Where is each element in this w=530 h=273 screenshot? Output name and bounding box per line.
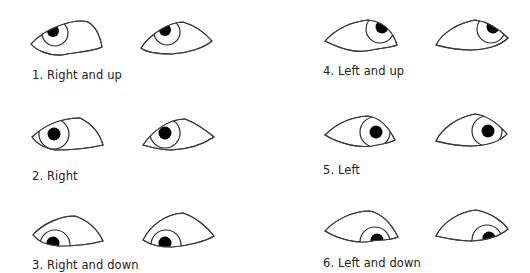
pupil bbox=[482, 125, 495, 138]
eye-right bbox=[143, 213, 214, 260]
panel-5-eyes bbox=[325, 114, 507, 147]
pupil bbox=[487, 21, 500, 34]
eye-right bbox=[143, 118, 214, 150]
panel-6-eyes bbox=[325, 210, 508, 257]
pupil bbox=[159, 237, 172, 250]
pupil bbox=[370, 126, 383, 139]
panel-2-label: 2. Right bbox=[32, 169, 78, 183]
pupil bbox=[47, 237, 60, 250]
panel-3-eyes bbox=[33, 213, 214, 260]
panel-5-label: 5. Left bbox=[323, 163, 360, 177]
panel-4-label: 4. Left and up bbox=[323, 64, 404, 78]
iris bbox=[472, 225, 502, 255]
eye-right bbox=[436, 210, 508, 255]
panel-1-label: 1. Right and up bbox=[32, 68, 122, 82]
eye-right bbox=[436, 15, 508, 50]
panel-1-eyes bbox=[31, 19, 212, 55]
eye-right bbox=[141, 19, 212, 54]
panel-4-eyes bbox=[325, 15, 508, 51]
pupil bbox=[159, 127, 172, 140]
eye-illustrations bbox=[0, 0, 530, 273]
eye-left bbox=[31, 20, 102, 55]
eye-gaze-diagram: 1. Right and up 2. Right 3. Right and do… bbox=[0, 0, 530, 273]
eye-left bbox=[32, 118, 103, 150]
eye-left bbox=[325, 116, 395, 147]
panel-6-label: 6. Left and down bbox=[323, 256, 421, 270]
panel-3-label: 3. Right and down bbox=[32, 258, 139, 272]
eye-right bbox=[436, 114, 507, 146]
eye-left bbox=[325, 15, 397, 51]
eye-left bbox=[325, 211, 398, 257]
pupil bbox=[48, 128, 61, 141]
panel-2-eyes bbox=[32, 118, 214, 150]
eye-left bbox=[33, 216, 103, 260]
